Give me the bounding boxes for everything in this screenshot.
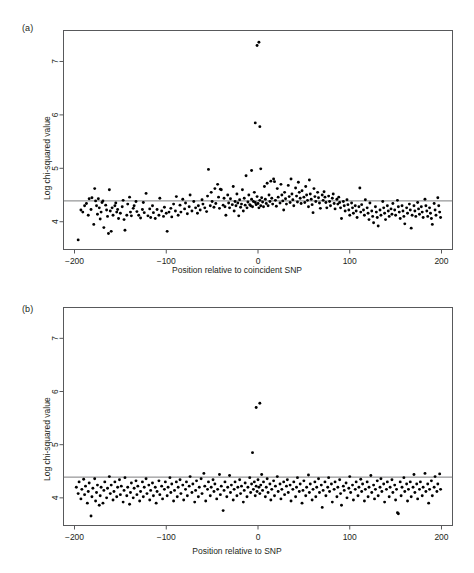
data-point	[386, 480, 389, 483]
data-point	[218, 207, 221, 210]
data-point	[406, 500, 409, 503]
data-point	[417, 207, 420, 210]
data-point	[238, 198, 241, 201]
data-point	[279, 483, 282, 486]
data-point	[270, 488, 273, 491]
data-point	[304, 494, 307, 497]
data-point	[203, 485, 206, 488]
data-point	[112, 499, 115, 502]
data-point	[405, 206, 408, 209]
data-point	[350, 202, 353, 205]
data-point	[246, 495, 249, 498]
data-point	[330, 483, 333, 486]
data-point	[253, 191, 256, 194]
data-point	[274, 199, 277, 202]
data-point	[323, 190, 326, 193]
data-point	[236, 202, 239, 205]
data-point	[245, 174, 248, 177]
data-point	[191, 483, 194, 486]
data-point	[348, 475, 351, 478]
data-point	[241, 188, 244, 191]
data-point	[311, 203, 314, 206]
data-point	[298, 490, 301, 493]
data-point	[437, 204, 440, 207]
data-point	[119, 212, 122, 215]
data-point	[297, 181, 300, 184]
data-point	[77, 492, 80, 495]
data-point	[164, 480, 167, 483]
data-point	[282, 480, 285, 483]
data-point	[233, 210, 236, 213]
data-point	[320, 484, 323, 487]
data-point	[169, 207, 172, 210]
data-point	[229, 197, 232, 200]
data-point	[307, 205, 310, 208]
data-point	[346, 203, 349, 206]
data-point	[374, 488, 377, 491]
data-point	[398, 211, 401, 214]
data-point	[305, 194, 308, 197]
data-point	[266, 182, 269, 185]
data-point	[434, 209, 437, 212]
data-point	[295, 486, 298, 489]
data-point	[418, 213, 421, 216]
data-point	[379, 486, 382, 489]
data-point	[252, 488, 255, 491]
data-point	[333, 202, 336, 205]
data-point	[287, 184, 290, 187]
data-point	[291, 488, 294, 491]
data-point	[411, 214, 414, 217]
data-point	[421, 494, 424, 497]
data-point	[296, 201, 299, 204]
data-point	[336, 486, 339, 489]
data-point	[166, 494, 169, 497]
data-point	[424, 204, 427, 207]
data-point	[90, 495, 93, 498]
data-point	[317, 196, 320, 199]
data-point	[264, 495, 267, 498]
data-point	[209, 204, 212, 207]
data-point	[312, 211, 315, 214]
data-point	[435, 214, 438, 217]
data-point	[194, 489, 197, 492]
data-point	[342, 200, 345, 203]
data-point	[199, 209, 202, 212]
data-point	[416, 201, 419, 204]
data-point	[176, 495, 179, 498]
data-point	[326, 486, 329, 489]
data-point	[435, 490, 438, 493]
data-point	[279, 497, 282, 500]
data-point	[268, 194, 271, 197]
data-point	[422, 486, 425, 489]
data-point	[253, 480, 256, 483]
data-point	[313, 480, 316, 483]
data-point	[168, 211, 171, 214]
data-point	[368, 218, 371, 221]
data-point	[274, 485, 277, 488]
data-point	[360, 490, 363, 493]
data-point	[264, 198, 267, 201]
data-point	[401, 486, 404, 489]
data-point	[285, 485, 288, 488]
data-point	[361, 483, 364, 486]
data-point	[135, 210, 138, 213]
data-point	[151, 204, 154, 207]
data-point	[368, 202, 371, 205]
data-point	[125, 214, 128, 217]
data-point	[224, 214, 227, 217]
x-tick-label: 100	[343, 532, 357, 542]
data-point	[259, 167, 262, 170]
data-point	[158, 493, 161, 496]
data-point	[363, 214, 366, 217]
data-point	[377, 225, 380, 228]
data-point	[386, 204, 389, 207]
data-point	[236, 486, 239, 489]
data-point	[389, 486, 392, 489]
panel-a-x-axis-title: Position relative to coincident SNP	[0, 265, 474, 275]
data-point	[228, 206, 231, 209]
data-point	[222, 509, 225, 512]
data-point	[313, 195, 316, 198]
data-point	[391, 213, 394, 216]
data-point	[300, 202, 303, 205]
data-point	[348, 214, 351, 217]
